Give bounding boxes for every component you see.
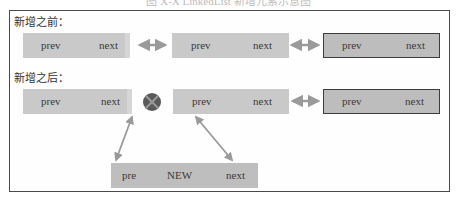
connectors-layer <box>0 0 457 203</box>
bidirectional-arrow-icon <box>196 117 232 160</box>
bidirectional-arrow-icon <box>116 117 132 160</box>
x-circle-icon <box>143 93 161 111</box>
